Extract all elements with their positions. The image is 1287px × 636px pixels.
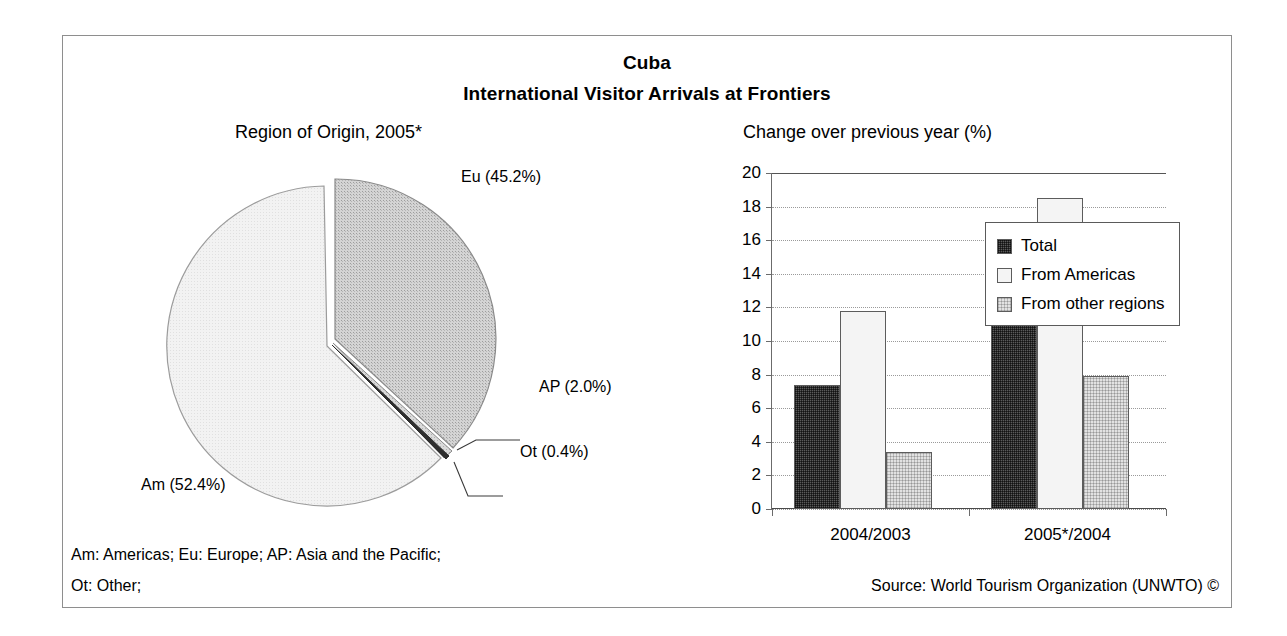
gridline-18 [772, 207, 1166, 208]
legend-item-from-other-regions: From other regions [997, 294, 1165, 314]
legend-swatch-total [997, 239, 1012, 254]
bar-20042003-from-other-regions [886, 452, 932, 509]
gridline-10 [772, 341, 1166, 342]
y-axis-label-16: 16 [742, 230, 761, 250]
x-axis-tick-1 [1166, 509, 1167, 516]
y-axis-label-10: 10 [742, 331, 761, 351]
pie-leader-line-ot [454, 462, 503, 496]
y-axis-label-8: 8 [752, 365, 761, 385]
y-axis-label-6: 6 [752, 398, 761, 418]
bar-20042003-from-americas [840, 311, 886, 509]
x-axis-label-20042003: 2004/2003 [830, 525, 910, 545]
chart-title-line1: Cuba [63, 52, 1231, 74]
y-axis-label-4: 4 [752, 432, 761, 452]
y-axis-label-2: 2 [752, 465, 761, 485]
pie-chart-subtitle: Region of Origin, 2005* [235, 122, 422, 143]
legend-label-total: Total [1021, 236, 1057, 256]
y-axis-label-0: 0 [752, 499, 761, 519]
bar-20042003-total [794, 385, 840, 509]
pie-label-ap: AP (2.0%) [539, 378, 612, 396]
footnote-abbreviations-line1: Am: Americas; Eu: Europe; AP: Asia and t… [71, 546, 441, 564]
y-tick-18 [766, 207, 772, 208]
y-tick-12 [766, 307, 772, 308]
pie-label-eu: Eu (45.2%) [461, 168, 541, 186]
bar-20052004-from-other-regions [1083, 376, 1129, 509]
y-tick-20 [766, 173, 772, 174]
legend-label-from-other-regions: From other regions [1021, 294, 1165, 314]
x-axis-tick-origin [772, 509, 773, 516]
bar-chart: 201816141210864202004/20032005*/2004 Tot… [648, 146, 1228, 586]
legend-item-total: Total [997, 236, 1165, 256]
legend-swatch-from-americas [997, 268, 1012, 283]
legend-item-from-americas: From Americas [997, 265, 1165, 285]
pie-label-am: Am (52.4%) [141, 476, 225, 494]
figure-frame: Cuba International Visitor Arrivals at F… [62, 35, 1232, 608]
legend-label-from-americas: From Americas [1021, 265, 1135, 285]
gridline-20 [772, 173, 1166, 174]
y-axis-label-20: 20 [742, 163, 761, 183]
footnote-abbreviations-line2: Ot: Other; [71, 577, 141, 595]
y-axis-label-14: 14 [742, 264, 761, 284]
y-axis-label-12: 12 [742, 297, 761, 317]
y-tick-2 [766, 475, 772, 476]
bar-chart-legend: Total From Americas From other regions [985, 222, 1180, 326]
y-axis-label-18: 18 [742, 197, 761, 217]
pie-chart: Eu (45.2%) AP (2.0%) Ot (0.4%) Am (52.4%… [83, 146, 643, 546]
pie-leader-line-ap [457, 440, 520, 450]
x-axis-tick-0 [969, 509, 970, 516]
y-tick-10 [766, 341, 772, 342]
x-axis-label-20052004: 2005*/2004 [1024, 525, 1111, 545]
pie-label-ot: Ot (0.4%) [520, 443, 588, 461]
y-tick-14 [766, 274, 772, 275]
y-tick-16 [766, 240, 772, 241]
legend-swatch-from-other-regions [997, 297, 1012, 312]
bar-chart-subtitle: Change over previous year (%) [743, 122, 992, 143]
y-tick-6 [766, 408, 772, 409]
y-tick-8 [766, 375, 772, 376]
y-tick-4 [766, 442, 772, 443]
source-note: Source: World Tourism Organization (UNWT… [871, 577, 1219, 595]
chart-title-line2: International Visitor Arrivals at Fronti… [63, 83, 1231, 105]
